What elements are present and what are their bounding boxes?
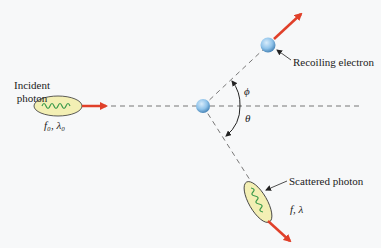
recoiling-electron — [261, 38, 276, 53]
incident-label-line2: photon — [10, 92, 54, 105]
recoiling-electron-label: Recoiling electron — [293, 56, 374, 69]
theta-arc — [226, 106, 240, 136]
scattered-pointer — [266, 181, 287, 190]
electron-path-line — [203, 46, 267, 106]
theta-label: θ — [245, 112, 250, 125]
phi-label: ϕ — [244, 85, 250, 98]
incident-photon-label: Incident photon — [10, 79, 54, 105]
phi-arc — [232, 81, 240, 106]
incident-params: f₀, λ₀ — [44, 119, 65, 132]
scattered-photon-label: Scattered photon — [289, 175, 363, 188]
scattered-arrow — [268, 221, 290, 241]
recoiling-pointer — [277, 50, 291, 60]
target-electron — [196, 99, 210, 113]
scattered-photon — [239, 178, 278, 227]
incident-label-line1: Incident — [10, 79, 54, 92]
scattered-path-line — [203, 106, 250, 180]
electron-arrow — [274, 14, 301, 39]
scattered-params: f, λ — [290, 203, 303, 216]
